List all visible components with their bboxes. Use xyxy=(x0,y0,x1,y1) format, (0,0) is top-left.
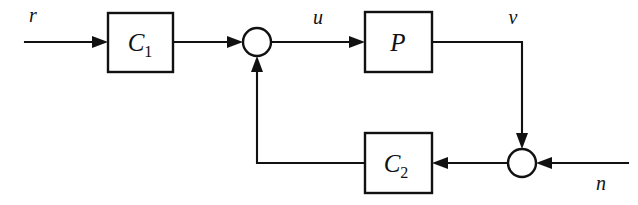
signal-label-u: u xyxy=(313,6,323,28)
diagram-canvas: C1 P C2 r u v n xyxy=(0,0,638,205)
arrowhead-into-p xyxy=(349,36,365,48)
signal-label-n: n xyxy=(596,172,606,194)
block-c2-subscript: 2 xyxy=(400,164,408,181)
signal-label-v: v xyxy=(509,6,518,28)
arrowhead-into-c2 xyxy=(432,157,448,169)
block-c1-subscript: 1 xyxy=(144,43,152,60)
arrowhead-into-sum2-top xyxy=(516,133,528,149)
arrowhead-into-sum1-bottom xyxy=(251,56,263,72)
wire-p-to-sum2 xyxy=(432,42,522,145)
block-c1-letter: C xyxy=(128,29,145,56)
block-p-letter: P xyxy=(389,29,405,56)
summing-junction-2 xyxy=(508,149,536,177)
wire-c2-feedback-to-sum1 xyxy=(257,60,365,163)
summing-junction-1 xyxy=(243,28,271,56)
arrowhead-into-sum1 xyxy=(227,36,243,48)
arrowhead-into-sum2-right xyxy=(536,157,552,169)
signal-label-r: r xyxy=(29,4,37,26)
block-diagram: C1 P C2 r u v n xyxy=(0,0,638,205)
block-c2-letter: C xyxy=(384,150,401,177)
block-p-label: P xyxy=(389,29,405,56)
arrowhead-into-c1 xyxy=(92,36,108,48)
